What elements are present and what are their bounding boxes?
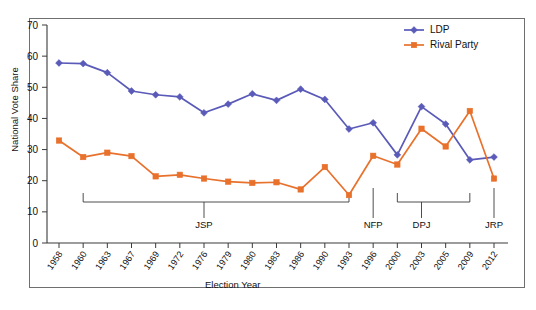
legend-item-ldp[interactable]: LDP <box>404 24 450 35</box>
x-axis-tick-label: 1958 <box>45 249 65 271</box>
series-line <box>59 63 494 160</box>
data-point-marker <box>225 101 232 108</box>
data-point-marker <box>129 153 134 158</box>
chart-legend: LDPRival Party <box>404 24 478 50</box>
period-annotation-label: DPJ <box>413 219 431 230</box>
data-point-marker <box>419 126 424 131</box>
data-point-marker <box>297 86 304 93</box>
period-annotation-label: JRP <box>485 219 503 230</box>
data-point-marker <box>346 192 351 197</box>
chart-plot-area: 010203040506070 195819601963196719691972… <box>0 0 536 310</box>
data-point-marker <box>467 108 472 113</box>
y-axis-tick-label: 40 <box>27 113 39 124</box>
x-axis-tick-label: 1996 <box>359 249 379 271</box>
data-point-marker <box>177 172 182 177</box>
data-point-marker <box>395 162 400 167</box>
x-axis: 1958196019631967196919721976197919801983… <box>45 243 508 272</box>
period-annotation-label: JSP <box>195 219 212 230</box>
x-axis-tick-label: 2012 <box>480 249 500 271</box>
y-axis-tick-label: 50 <box>27 82 39 93</box>
x-axis-tick-label: 1960 <box>69 249 89 271</box>
data-point-marker <box>56 60 63 67</box>
y-axis-tick-label: 20 <box>27 175 39 186</box>
x-axis-tick-label: 1969 <box>142 249 162 271</box>
legend-item-rival-party[interactable]: Rival Party <box>404 39 478 50</box>
data-point-marker <box>225 179 230 184</box>
data-point-marker <box>105 150 110 155</box>
series-ldp <box>56 60 498 164</box>
x-axis-tick-label: 1980 <box>238 249 258 271</box>
data-point-marker <box>56 138 61 143</box>
data-point-marker <box>443 144 448 149</box>
data-point-marker <box>80 60 87 67</box>
y-axis-tick-label: 10 <box>27 206 39 217</box>
data-point-marker <box>370 153 375 158</box>
y-axis: 010203040506070 <box>27 20 47 249</box>
data-point-marker <box>80 154 85 159</box>
period-annotations: JSPNFPDPJJRP <box>83 188 503 230</box>
data-point-marker <box>273 97 280 104</box>
x-axis-tick-label: 1979 <box>214 249 234 271</box>
x-axis-tick-label: 1976 <box>190 249 210 271</box>
data-point-marker <box>491 176 496 181</box>
data-point-marker <box>411 27 418 34</box>
x-axis-tick-label: 1990 <box>311 249 331 271</box>
data-point-marker <box>298 187 303 192</box>
x-axis-tick-label: 1972 <box>166 249 186 271</box>
x-axis-tick-label: 1963 <box>93 249 113 271</box>
x-axis-tick-label: 2009 <box>456 249 476 271</box>
series-rival-party <box>56 108 496 197</box>
x-axis-tick-label: 1983 <box>262 249 282 271</box>
data-point-marker <box>249 90 256 97</box>
y-axis-tick-label: 30 <box>27 144 39 155</box>
x-axis-tick-label: 2005 <box>432 249 452 271</box>
period-annotation-label: NFP <box>364 219 383 230</box>
data-point-marker <box>491 154 498 161</box>
data-point-marker <box>201 176 206 181</box>
data-point-marker <box>153 174 158 179</box>
chart-container: National Vote Share Election Year 010203… <box>0 0 536 310</box>
data-point-marker <box>274 180 279 185</box>
y-axis-tick-label: 0 <box>32 238 38 249</box>
data-point-marker <box>322 164 327 169</box>
data-point-marker <box>250 180 255 185</box>
y-axis-tick-label: 70 <box>27 20 39 31</box>
x-axis-tick-label: 1967 <box>117 249 137 271</box>
data-point-marker <box>152 91 159 98</box>
x-axis-tick-label: 2000 <box>383 249 403 271</box>
data-point-marker <box>411 42 416 47</box>
x-axis-tick-label: 1993 <box>335 249 355 271</box>
data-series <box>56 60 498 198</box>
legend-label: LDP <box>430 24 450 35</box>
y-axis-tick-label: 60 <box>27 51 39 62</box>
x-axis-tick-label: 2003 <box>407 249 427 271</box>
legend-label: Rival Party <box>430 39 478 50</box>
x-axis-tick-label: 1986 <box>287 249 307 271</box>
